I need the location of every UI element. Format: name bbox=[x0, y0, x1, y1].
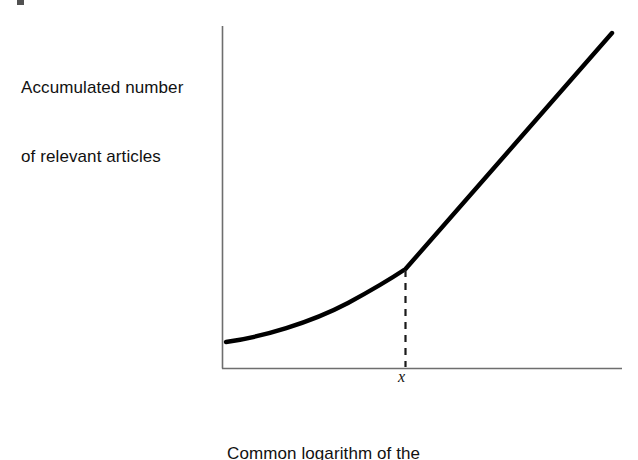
plot-area bbox=[0, 0, 638, 460]
figure-container: Accumulated number of relevant articles … bbox=[0, 0, 638, 460]
x-tick-label: x bbox=[398, 368, 405, 386]
x-axis-label: Common logarithm of the accumulated numb… bbox=[227, 396, 472, 460]
x-axis-label-line-1: Common logarithm of the bbox=[227, 442, 472, 460]
bradford-curve bbox=[226, 33, 612, 342]
